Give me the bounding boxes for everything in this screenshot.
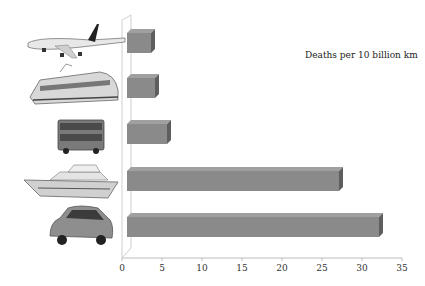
x-tick-label: 25 [316,263,328,273]
x-tick-label: 30 [356,263,368,273]
x-tick-label: 5 [159,263,165,273]
car-icon [50,206,113,245]
plane-icon [28,24,125,58]
bar-ship [127,167,343,191]
category-icons [24,24,125,245]
bar-bus [127,120,171,144]
bar-car [127,213,383,237]
train-icon [30,64,118,104]
bar-chart: 05101520253035 Deaths per 10 billion km [0,0,425,286]
bus-icon [58,120,104,154]
x-tick-label: 0 [119,263,125,273]
annotation-text: Deaths per 10 billion km [305,50,418,60]
x-tick-label: 35 [396,263,408,273]
x-tick-label: 15 [236,263,248,273]
x-tick-label: 10 [196,263,208,273]
bar-plane [127,29,155,53]
x-axis: 05101520253035 [119,258,408,273]
bars [127,29,383,237]
bar-train [127,74,159,98]
ship-icon [24,165,118,198]
x-tick-label: 20 [276,263,288,273]
